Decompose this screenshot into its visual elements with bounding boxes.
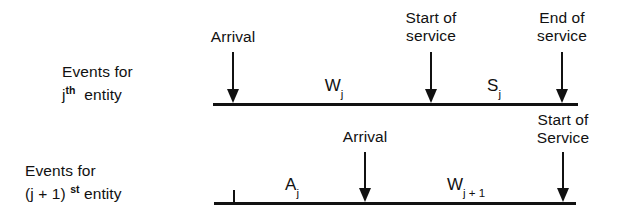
row-label-j-plus-1-entity: Events for (j + 1) st entity bbox=[25, 161, 122, 203]
row-label-j-plus-1-entity-ordinal-base: (j + 1) bbox=[25, 185, 66, 202]
row-label-j-plus-1-entity-line2: (j + 1) st entity bbox=[25, 180, 122, 203]
row-label-j-entity-line2: jth entity bbox=[62, 81, 133, 104]
event-label-end-of-service-j: End of service bbox=[537, 9, 587, 45]
event-label-arrival-j-plus-1-line1: Arrival bbox=[343, 128, 388, 146]
interval-symbol-service-time-j: S bbox=[487, 76, 498, 95]
events-timeline-diagram: Events for jth entity Arrival Start of s… bbox=[0, 0, 636, 222]
row-label-j-entity-noun: entity bbox=[84, 86, 122, 103]
interval-label-waiting-time-j-plus-1: Wj + 1 bbox=[447, 175, 485, 196]
interval-label-waiting-time-j: Wj bbox=[325, 76, 344, 97]
event-label-start-of-service-j-plus-1-line2: Service bbox=[537, 129, 589, 147]
row-label-j-plus-1-entity-ordinal-suffix: st bbox=[70, 183, 79, 195]
event-label-arrival-j-plus-1: Arrival bbox=[343, 128, 388, 146]
interval-subscript-interarrival-time: j bbox=[296, 187, 299, 199]
interval-symbol-waiting-time-j-plus-1: W bbox=[447, 175, 463, 194]
event-arrow-end-of-service-j bbox=[555, 52, 569, 103]
event-label-start-of-service-j: Start of service bbox=[406, 9, 457, 45]
interval-subscript-waiting-time-j-plus-1: j + 1 bbox=[463, 187, 485, 199]
event-arrow-arrival-j bbox=[226, 52, 240, 103]
event-label-start-of-service-j-line2: service bbox=[406, 27, 457, 45]
timeline-axis-j-plus-1-entity bbox=[214, 202, 576, 205]
row-label-j-plus-1-entity-line1: Events for bbox=[25, 161, 122, 180]
event-arrow-arrival-j-plus-1 bbox=[358, 152, 372, 202]
event-label-end-of-service-j-line1: End of bbox=[537, 9, 587, 27]
event-label-start-of-service-j-plus-1: Start of Service bbox=[537, 111, 589, 147]
interval-label-service-time-j: Sj bbox=[487, 76, 501, 97]
event-label-arrival-j-line1: Arrival bbox=[211, 28, 256, 46]
interval-symbol-interarrival-time: A bbox=[285, 175, 296, 194]
event-arrow-start-of-service-j-plus-1 bbox=[556, 152, 570, 202]
interval-label-interarrival-time: Aj bbox=[285, 175, 299, 196]
interval-subscript-service-time-j: j bbox=[498, 88, 501, 100]
row-label-j-entity-ordinal-suffix: th bbox=[66, 84, 76, 96]
interval-symbol-waiting-time-j: W bbox=[325, 76, 341, 95]
row-label-j-entity-line1: Events for bbox=[62, 62, 133, 81]
row-label-j-entity: Events for jth entity bbox=[62, 62, 133, 104]
row-label-j-plus-1-entity-noun: entity bbox=[84, 185, 122, 202]
event-arrow-start-of-service-j bbox=[424, 52, 438, 103]
interval-subscript-waiting-time-j: j bbox=[341, 88, 344, 100]
event-label-start-of-service-j-line1: Start of bbox=[406, 9, 457, 27]
timeline-axis-j-entity bbox=[213, 103, 578, 106]
event-label-arrival-j: Arrival bbox=[211, 28, 256, 46]
tick-previous-arrival-j-plus-1 bbox=[233, 190, 235, 203]
event-label-start-of-service-j-plus-1-line1: Start of bbox=[537, 111, 589, 129]
event-label-end-of-service-j-line2: service bbox=[537, 27, 587, 45]
